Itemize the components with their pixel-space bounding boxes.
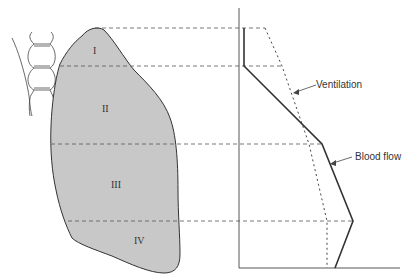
lung-zones-diagram: I II III IV Ventilation Blood flow	[0, 0, 412, 280]
blood-flow-curve	[244, 28, 353, 268]
ventilation-label: Ventilation	[316, 79, 362, 90]
zone-label-4: IV	[134, 235, 145, 246]
ventilation-curve	[265, 28, 327, 268]
zone-label-2: II	[102, 103, 109, 114]
lung-shape	[51, 28, 180, 273]
zone-label-1: I	[93, 45, 96, 56]
blood-flow-annotation: Blood flow	[330, 151, 402, 166]
graph-axes	[239, 8, 400, 268]
arrow-head-icon	[293, 89, 299, 95]
zone-label-3: III	[111, 179, 121, 190]
ventilation-annotation: Ventilation	[293, 79, 362, 95]
blood-flow-label: Blood flow	[355, 151, 402, 162]
spine-illustration	[12, 32, 55, 116]
